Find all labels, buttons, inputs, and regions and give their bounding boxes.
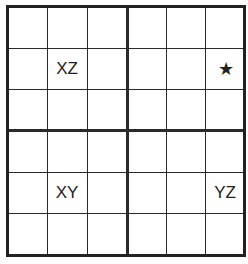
grid-line (9, 172, 243, 173)
star-icon: ★ (206, 59, 246, 79)
cell-label-yz: YZ (205, 183, 245, 203)
grid-line (9, 89, 243, 90)
cell-label-xy: XY (47, 183, 87, 203)
grid-line (9, 213, 243, 214)
grid-line (9, 48, 243, 49)
cell-label-xz: XZ (47, 59, 87, 79)
puzzle-grid: XZ ★ XY YZ (6, 5, 246, 257)
box-divider (9, 129, 243, 132)
